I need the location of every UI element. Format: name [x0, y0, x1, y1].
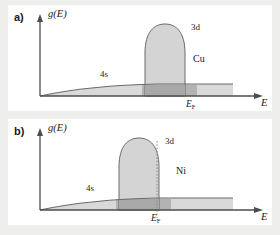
x-axis-label-b: E: [261, 212, 267, 223]
panel-tag-b: b): [14, 126, 24, 137]
y-axis-arrow-a: [37, 14, 43, 22]
dos-figure: g(E) E 4s 3d Cu EF g(E) E 4s 3d Ni EF a)…: [0, 0, 280, 235]
element-label-b: Ni: [176, 166, 186, 176]
d-band-occupied-b: [119, 199, 159, 210]
d-band-occupied-a: [145, 85, 185, 96]
fermi-label-a: EF: [186, 100, 195, 110]
d-band-label-b: 3d: [165, 137, 174, 146]
fermi-label-b: EF: [151, 214, 160, 224]
x-axis-label-a: E: [261, 98, 267, 109]
s-band-label-b: 4s: [86, 184, 94, 193]
element-label-a: Cu: [193, 54, 205, 64]
d-band-label-a: 3d: [191, 23, 200, 32]
fermi-label-b-sub: F: [157, 217, 161, 224]
y-axis-arrow-b: [37, 128, 43, 136]
panel-b-plot: [8, 119, 272, 225]
s-band-label-a: 4s: [100, 70, 108, 79]
panel-a-plot: [8, 5, 272, 111]
y-axis-label-a: g(E): [48, 9, 67, 20]
fermi-label-b-text: E: [151, 213, 157, 223]
fermi-label-a-text: E: [186, 99, 192, 109]
panel-b: g(E) E 4s 3d Ni EF: [8, 119, 272, 225]
panel-a: g(E) E 4s 3d Cu EF: [8, 5, 272, 111]
panel-tag-a: a): [14, 12, 24, 23]
fermi-label-a-sub: F: [192, 103, 196, 110]
s-band-light-fill-a: [40, 84, 233, 96]
y-axis-label-b: g(E): [48, 123, 67, 134]
